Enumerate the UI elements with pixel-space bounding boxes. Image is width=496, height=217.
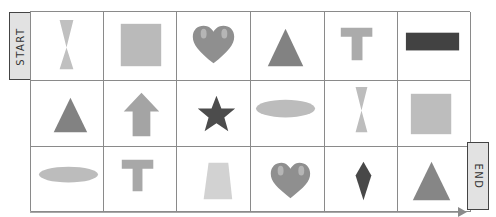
up-arrow-icon [104,81,176,146]
cell-r3-c3 [177,147,251,212]
end-label-text: END [473,163,484,189]
triangle-icon [398,147,470,211]
cell-r1-c6 [398,12,471,81]
cell-r3-c5 [325,147,398,212]
cell-r1-c2 [104,12,177,81]
cell-r1-c5 [325,12,398,81]
bar-icon [398,12,470,80]
cell-r1-c1 [31,12,104,81]
start-label-text: START [15,27,26,65]
cell-r2-c5 [325,81,398,147]
cell-r2-c4 [251,81,325,147]
cell-r2-c3 [177,81,251,147]
cell-r2-c1 [31,81,104,147]
t-shape-icon [104,147,176,211]
cell-r1-c3 [177,12,251,81]
ellipse-icon [251,81,324,146]
trapezoid-icon [177,147,250,211]
cell-r3-c2 [104,147,177,212]
ellipse-icon [31,147,103,211]
diamond-icon [325,147,397,211]
t-shape-icon [325,12,397,80]
hourglass-icon [325,81,397,146]
cell-r2-c2 [104,81,177,147]
cell-r2-c6 [398,81,471,147]
cell-r1-c4 [251,12,325,81]
heart-icon [251,147,324,211]
triangle-icon [251,12,324,80]
shape-grid [30,11,470,211]
triangle-icon [31,81,103,146]
start-label: START [9,12,31,80]
end-label: END [467,142,489,210]
cell-r3-c4 [251,147,325,212]
cell-r3-c6 [398,147,471,212]
star-icon [177,81,250,146]
cell-r3-c1 [31,147,104,212]
hourglass-icon [31,12,103,80]
heart-icon [177,12,250,80]
square-icon [104,12,176,80]
square-icon [398,81,470,146]
